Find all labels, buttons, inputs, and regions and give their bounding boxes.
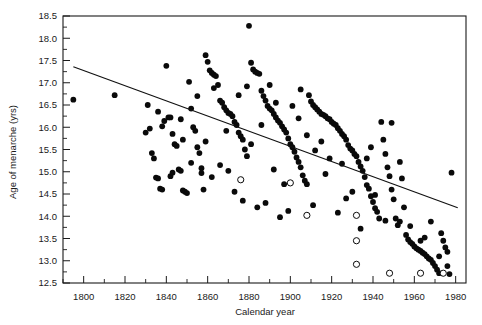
data-point-filled	[304, 132, 310, 138]
data-point-filled	[159, 123, 165, 129]
chart-figure: 1800182018401860188019001920194019601980…	[0, 0, 482, 325]
data-point-filled	[248, 60, 254, 66]
data-point-filled	[248, 141, 254, 147]
data-point-open	[304, 212, 310, 218]
data-point-filled	[383, 151, 389, 157]
data-point-filled	[70, 97, 76, 103]
y-tick-label: 15.5	[39, 144, 58, 155]
data-point-filled	[159, 187, 165, 193]
data-point-filled	[397, 159, 403, 165]
y-axis-title: Age of menarche (yrs)	[7, 105, 18, 199]
data-point-filled	[199, 165, 205, 171]
data-point-filled	[205, 59, 211, 65]
data-point-filled	[281, 181, 287, 187]
data-point-filled	[186, 79, 192, 85]
trend-line	[73, 67, 457, 208]
x-tick-label: 1800	[73, 291, 94, 302]
data-point-filled	[170, 170, 176, 176]
y-axis-tick-labels: 12.513.013.514.014.515.015.516.016.517.0…	[39, 10, 58, 288]
data-point-filled	[236, 92, 242, 98]
x-tick-label: 1840	[156, 291, 177, 302]
data-point-filled	[285, 208, 291, 214]
data-point-filled	[292, 149, 298, 155]
data-point-filled	[418, 238, 424, 244]
data-point-open	[440, 270, 446, 276]
data-point-filled	[242, 147, 248, 153]
data-point-filled	[304, 181, 310, 187]
data-point-filled	[306, 92, 312, 98]
data-point-open	[353, 238, 359, 244]
data-point-filled	[387, 173, 393, 179]
y-axis-ticks	[63, 16, 70, 283]
y-tick-label: 16.0	[39, 122, 58, 133]
data-point-open	[353, 261, 359, 267]
data-point-filled	[399, 176, 405, 182]
data-point-filled	[267, 82, 273, 88]
data-point-filled	[296, 115, 302, 121]
data-point-filled	[300, 172, 306, 178]
data-point-filled	[401, 204, 407, 210]
data-point-filled	[310, 202, 316, 208]
x-axis-title: Calendar year	[235, 306, 295, 317]
data-point-filled	[203, 52, 209, 58]
y-tick-label: 18.0	[39, 33, 58, 44]
data-point-filled	[438, 230, 444, 236]
data-point-filled	[217, 162, 223, 168]
data-point-filled	[349, 189, 355, 195]
y-tick-label: 18.5	[39, 10, 58, 21]
data-point-filled	[240, 137, 246, 143]
data-point-filled	[385, 164, 391, 170]
data-point-filled	[194, 144, 200, 150]
x-tick-label: 1900	[280, 291, 301, 302]
x-tick-label: 1880	[238, 291, 259, 302]
data-point-filled	[318, 139, 324, 145]
data-point-filled	[213, 73, 219, 79]
data-point-filled	[290, 103, 296, 109]
data-point-filled	[271, 167, 277, 173]
plot-frame	[63, 16, 466, 283]
data-point-filled	[194, 93, 200, 99]
data-point-filled	[256, 71, 262, 77]
data-point-filled	[445, 249, 451, 255]
data-point-filled	[184, 190, 190, 196]
data-point-filled	[428, 219, 434, 225]
data-point-filled	[370, 199, 376, 205]
x-tick-label: 1820	[114, 291, 135, 302]
x-tick-label: 1940	[362, 291, 383, 302]
x-axis-ticks	[63, 276, 456, 283]
data-point-filled	[174, 143, 180, 149]
data-point-filled	[230, 113, 236, 119]
data-point-filled	[368, 144, 374, 150]
data-point-filled	[178, 116, 184, 122]
data-point-filled	[188, 160, 194, 166]
data-point-filled	[397, 219, 403, 225]
data-point-filled	[163, 63, 169, 69]
data-point-filled	[263, 98, 269, 104]
data-point-filled	[263, 200, 269, 206]
y-tick-label: 17.5	[39, 55, 58, 66]
data-point-filled	[232, 189, 238, 195]
data-point-open	[287, 180, 293, 186]
data-point-filled	[244, 83, 250, 89]
data-point-filled	[407, 223, 413, 229]
data-point-filled	[209, 174, 215, 180]
data-point-filled	[366, 186, 372, 192]
data-point-filled	[296, 159, 302, 165]
data-point-filled	[383, 218, 389, 224]
data-points	[70, 23, 454, 277]
data-point-filled	[112, 92, 118, 98]
data-point-filled	[436, 253, 442, 259]
data-point-filled	[149, 150, 155, 156]
y-tick-label: 13.0	[39, 255, 58, 266]
data-point-filled	[178, 168, 184, 174]
x-tick-label: 1980	[445, 291, 466, 302]
data-point-filled	[374, 209, 380, 215]
y-tick-label: 16.5	[39, 99, 58, 110]
y-tick-label: 13.5	[39, 233, 58, 244]
data-point-filled	[143, 130, 149, 136]
data-point-filled	[155, 176, 161, 182]
data-point-filled	[323, 171, 329, 177]
data-point-open	[417, 270, 423, 276]
data-point-filled	[445, 263, 451, 269]
data-point-filled	[197, 150, 203, 156]
